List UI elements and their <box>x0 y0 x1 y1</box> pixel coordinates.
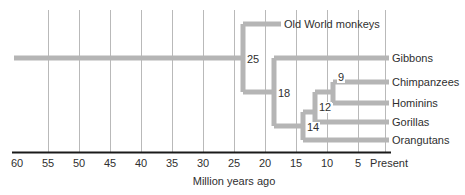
axis-tick-50: 50 <box>73 157 85 169</box>
axis-tick-45: 45 <box>104 157 116 169</box>
axis-tick-10: 10 <box>321 157 333 169</box>
tip-label-orangutans: Orangutans <box>392 134 449 146</box>
tip-label-chimpanzees: Chimpanzees <box>392 76 459 88</box>
axis-tick-35: 35 <box>166 157 178 169</box>
x-axis-title: Million years ago <box>193 175 276 187</box>
axis-tick-25: 25 <box>228 157 240 169</box>
tip-label-gorillas: Gorillas <box>392 116 429 128</box>
tip-label-old-world-monkeys: Old World monkeys <box>284 18 380 30</box>
axis-tick-15: 15 <box>290 157 302 169</box>
axis-tick-5: 5 <box>355 157 361 169</box>
node-label-9: 9 <box>337 72 345 83</box>
axis-tick-55: 55 <box>42 157 54 169</box>
tip-label-hominins: Hominins <box>392 97 438 109</box>
axis-tick-30: 30 <box>197 157 209 169</box>
tip-label-gibbons: Gibbons <box>392 52 433 64</box>
axis-tick-present: Present <box>370 157 408 169</box>
axis-tick-20: 20 <box>259 157 271 169</box>
node-label-14: 14 <box>306 122 320 133</box>
node-label-12: 12 <box>318 102 332 113</box>
phylogenetic-tree-figure: 25 18 9 12 14 Old World monkeys Gibbons … <box>0 0 465 195</box>
axis-tick-40: 40 <box>135 157 147 169</box>
node-label-25: 25 <box>246 54 260 65</box>
tree-branches <box>14 24 389 140</box>
node-label-18: 18 <box>277 88 291 99</box>
axis-tick-60: 60 <box>11 157 23 169</box>
